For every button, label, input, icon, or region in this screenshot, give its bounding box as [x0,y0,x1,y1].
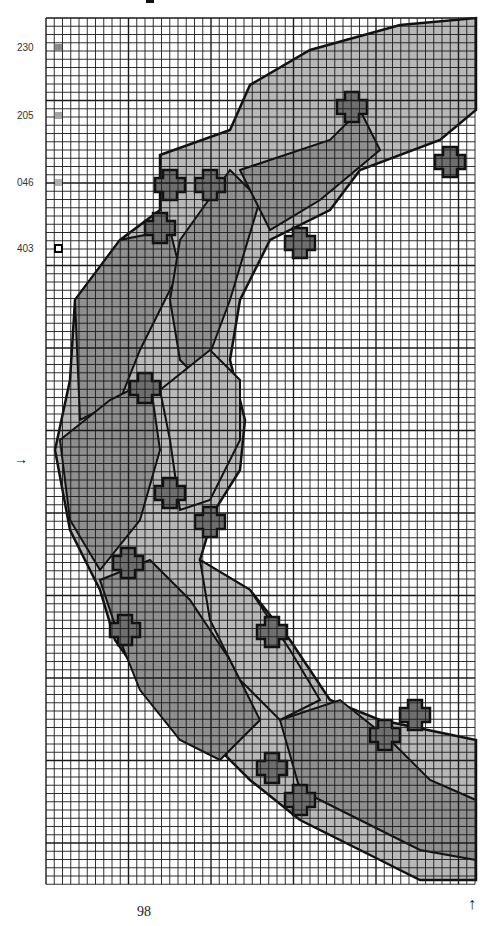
center-col-arrow: ↑ [468,895,476,913]
legend-swatches [55,44,62,252]
legend-swatch [55,44,62,51]
legend-swatch [55,179,62,186]
legend-swatch [55,245,62,252]
page-number: 98 [137,904,151,920]
stitch-chart [0,0,497,926]
center-row-arrow: → [14,451,28,467]
legend-swatch [55,112,62,119]
wreath-shapes [55,18,476,880]
